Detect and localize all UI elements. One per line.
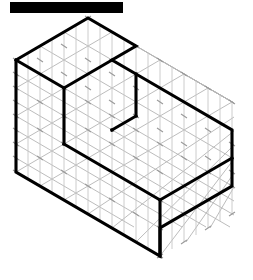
isometric-drawing-svg — [0, 0, 253, 280]
isometric-figure — [0, 0, 253, 280]
page-root — [0, 0, 253, 280]
